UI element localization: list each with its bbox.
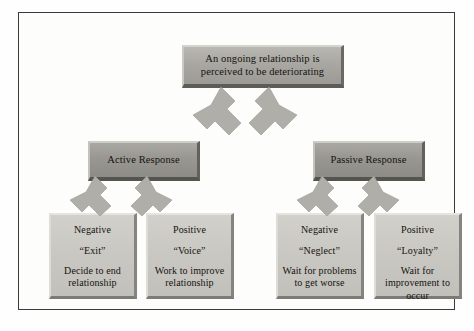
arrow-active-to-exit [63, 166, 123, 226]
outcome-voice-description: Work to improve relationship [148, 265, 231, 290]
premise-box-label: An ongoing relationship is perceived to … [184, 53, 341, 78]
outcome-exit-description: Decide to end relationship [51, 265, 134, 290]
active-response-label: Active Response [107, 154, 179, 166]
outcome-loyalty-description: Wait for improvement to occur [376, 265, 459, 303]
diagram-frame: An ongoing relationship is perceived to … [18, 12, 455, 310]
arrow-passive-to-loyalty [358, 166, 418, 226]
outcome-exit-term: “Exit” [79, 245, 105, 257]
arrow-premise-to-active [189, 73, 259, 143]
arrow-passive-to-neglect [290, 166, 350, 226]
outcome-loyalty-term: “Loyalty” [397, 245, 438, 257]
outcome-loyalty-valence: Positive [401, 224, 434, 236]
arrow-active-to-voice [131, 166, 191, 226]
diagram-canvas: An ongoing relationship is perceived to … [0, 0, 474, 331]
outcome-neglect-description: Wait for problems to get worse [278, 265, 361, 290]
outcome-voice-valence: Positive [173, 224, 206, 236]
outcome-neglect-term: “Neglect” [299, 245, 340, 257]
outcome-voice-term: “Voice” [173, 245, 205, 257]
outcome-exit-valence: Negative [74, 224, 111, 236]
passive-response-label: Passive Response [331, 154, 407, 166]
arrow-premise-to-passive [251, 73, 321, 143]
outcome-neglect-valence: Negative [301, 224, 338, 236]
